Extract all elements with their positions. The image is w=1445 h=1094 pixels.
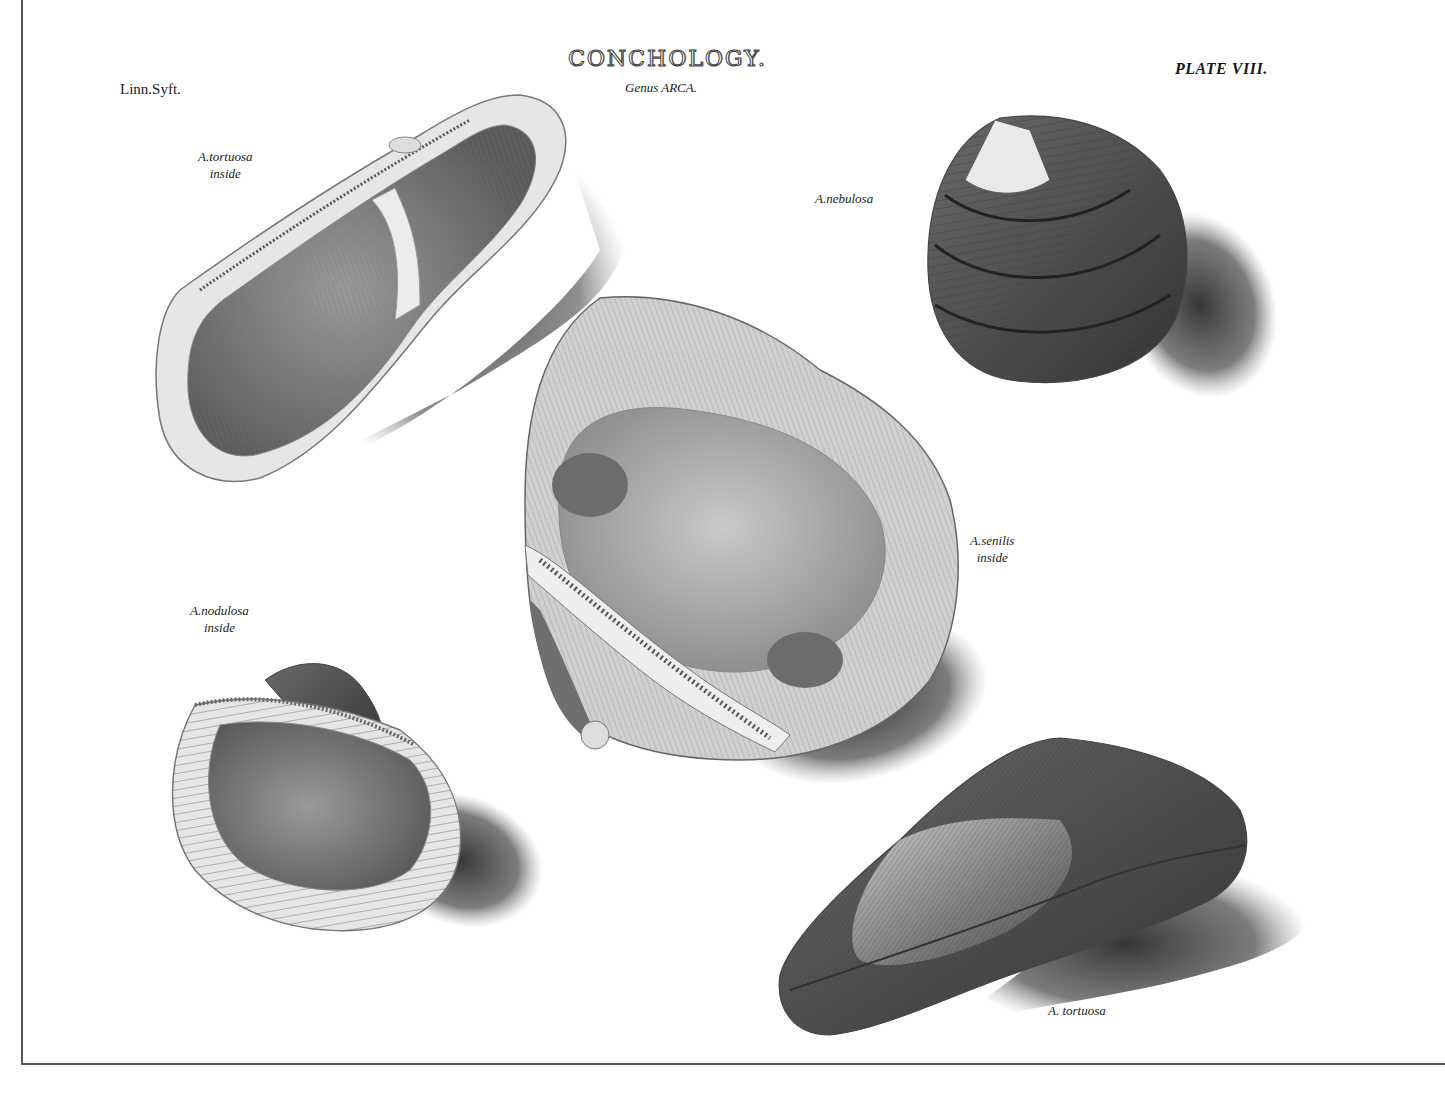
shell-a-tortuosa	[779, 738, 1311, 1035]
specimen-label-a-tortuosa-inside: A.tortuosa inside	[198, 148, 253, 182]
shell-a-nebulosa	[928, 116, 1303, 420]
specimen-name: A.nebulosa	[815, 190, 873, 207]
specimen-name: A.senilis	[970, 532, 1014, 549]
specimen-name: A.nodulosa	[190, 602, 249, 619]
specimen-view: inside	[190, 619, 249, 636]
specimen-label-a-nebulosa: A.nebulosa	[815, 190, 873, 207]
specimen-name: A. tortuosa	[1048, 1002, 1106, 1019]
classification-system-note: Linn.Syft.	[120, 81, 181, 98]
shell-a-senilis-inside	[525, 297, 1006, 811]
specimen-label-a-tortuosa: A. tortuosa	[1048, 1002, 1106, 1019]
specimen-view: inside	[970, 549, 1014, 566]
plate-number: PLATE VIII.	[1175, 60, 1268, 78]
specimen-label-a-nodulosa-inside: A.nodulosa inside	[190, 602, 249, 636]
genus-subtitle: Genus ARCA.	[625, 80, 697, 96]
engraving-plate: CONCHOLOGY. Genus ARCA. PLATE VIII. Linn…	[0, 0, 1445, 1094]
shell-a-nodulosa-inside	[173, 664, 563, 951]
specimen-view: inside	[198, 165, 253, 182]
specimen-name: A.tortuosa	[198, 148, 253, 165]
specimen-label-a-senilis-inside: A.senilis inside	[970, 532, 1014, 566]
plate-title: CONCHOLOGY.	[568, 46, 767, 71]
